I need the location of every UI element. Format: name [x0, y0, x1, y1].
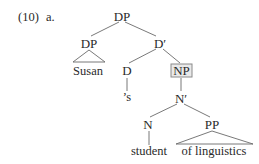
- node-dbar: D′: [154, 36, 166, 51]
- node-spec-dp: DP: [81, 36, 98, 51]
- edge-nbar-to-pp: [184, 104, 210, 117]
- edge-nbar-to-n: [150, 104, 177, 117]
- edge-root-to-dbar: [125, 22, 156, 36]
- leaf-susan: Susan: [73, 64, 104, 78]
- node-d: D: [122, 63, 131, 78]
- leaf-possessive-s: ’s: [123, 90, 131, 104]
- triangle-of-linguistics: [176, 131, 253, 144]
- node-root-dp: DP: [114, 9, 131, 24]
- node-nbar: N′: [175, 91, 187, 106]
- example-number: (10): [18, 10, 39, 24]
- node-np: NP: [173, 63, 190, 78]
- triangle-susan: [73, 50, 105, 62]
- node-n: N: [143, 117, 153, 132]
- leaf-of-linguistics: of linguistics: [182, 144, 247, 158]
- leaf-student: student: [131, 144, 168, 158]
- edge-dbar-to-np: [163, 49, 180, 63]
- edge-dbar-to-d: [129, 49, 156, 63]
- example-letter: a.: [46, 10, 55, 24]
- syntax-tree-diagram: (10) a. DP DP D′ Susan D NP ’s N′ N PP s…: [0, 0, 259, 164]
- edge-root-to-spec: [91, 22, 119, 36]
- node-pp: PP: [205, 117, 219, 132]
